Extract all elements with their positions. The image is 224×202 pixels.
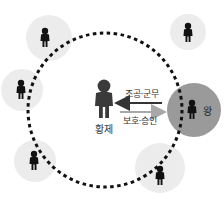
- emperor-person-icon: [95, 80, 113, 118]
- emperor-label: 황제: [95, 124, 113, 135]
- king-label: 왕: [203, 106, 212, 117]
- tributary-system-diagram: 조공·군무 보호·승인 황제 왕: [0, 0, 224, 202]
- protection-label: 보호·승인: [123, 116, 158, 126]
- tribute-label: 조공·군무: [125, 89, 160, 99]
